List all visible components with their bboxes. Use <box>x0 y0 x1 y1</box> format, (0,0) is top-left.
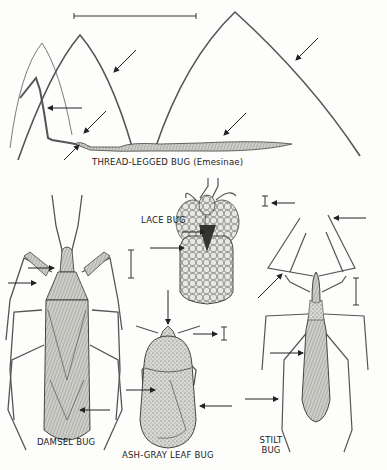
pointer-arrow-icon <box>48 38 318 160</box>
scale-bar-icon <box>221 327 227 340</box>
lace-bug-label: LACE BUG <box>141 215 186 225</box>
thread-legged-bug-label: THREAD-LEGGED BUG (Emesinae) <box>92 157 243 167</box>
scale-bar-icon <box>353 278 359 305</box>
scale-bar-icon <box>262 196 268 206</box>
damsel-bug-label: DAMSEL BUG <box>37 437 95 447</box>
damsel-bug <box>6 195 134 450</box>
stilt-bug-label-line1: STILT <box>256 435 286 445</box>
illustration-drawing <box>0 0 387 470</box>
scale-bar-icon <box>74 13 196 19</box>
stilt-bug <box>245 215 368 452</box>
scale-bar-icon <box>128 250 134 278</box>
ash-gray-leaf-bug <box>126 290 232 448</box>
thread-legged-bug <box>10 12 360 160</box>
stilt-bug-label-line2: BUG <box>256 445 286 455</box>
ash-gray-leaf-bug-label: ASH-GRAY LEAF BUG <box>122 450 214 460</box>
stilt-bug-label: STILT BUG <box>256 435 286 455</box>
lace-bug <box>150 178 295 304</box>
insect-illustration-plate: THREAD-LEGGED BUG (Emesinae) LACE BUG DA… <box>0 0 387 470</box>
